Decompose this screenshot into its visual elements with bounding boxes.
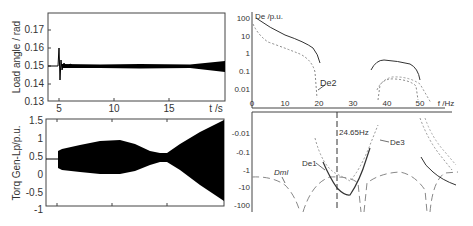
marker-label: 24.65Hz (339, 128, 369, 137)
ytick: 0.5 (29, 151, 43, 162)
ytick: 0.17 (25, 24, 45, 35)
ytick: -100 (234, 201, 251, 210)
de2-label: De2 (320, 78, 337, 88)
xtick: 15 (163, 103, 175, 114)
ytick: 0.1 (239, 67, 251, 76)
y-axis-label: Load angle / rad (11, 21, 22, 93)
y-axis-label: Torq Gen-Lp/p.u. (11, 125, 22, 200)
damping-positive-plot: 100 10 1 0.1 0.01 De /p.u. 0 10 20 30 40… (234, 12, 454, 108)
ytick: -0.01 (232, 129, 251, 138)
xtick: 5 (56, 103, 62, 114)
xtick: 50 (416, 99, 425, 108)
ytick: 1.5 (29, 115, 43, 126)
ytick: -1 (34, 204, 43, 215)
ytick: 0.16 (25, 42, 45, 53)
ytick: 1 (246, 49, 251, 58)
xtick: 10 (108, 103, 120, 114)
ytick: 100 (237, 14, 251, 23)
damping-negative-plot: -0.01 -0.1 -1 -10 -100 24.65Hz De1 De3 D… (232, 112, 458, 212)
xtick: 20 (315, 99, 324, 108)
load-angle-plot: 0.17 0.16 0.15 0.14 0.13 5 10 15 t /s Lo… (11, 13, 225, 114)
ytick: 1 (37, 133, 43, 144)
x-axis-label: t /s (209, 103, 222, 114)
x-axis-label: f /Hz (438, 99, 454, 108)
figure: 0.17 0.16 0.15 0.14 0.13 5 10 15 t /s Lo… (0, 0, 473, 226)
xtick: 0 (250, 99, 255, 108)
ytick: -0.1 (236, 148, 250, 157)
ytick: -1 (243, 166, 251, 175)
xtick: 40 (383, 99, 392, 108)
ytick: 0.15 (25, 60, 45, 71)
torque-plot: 1.5 1 0.5 0 -0.5 -1 Torq Gen-Lp/p.u. (11, 115, 224, 215)
ytick: -0.5 (26, 187, 44, 198)
xtick: 30 (349, 99, 358, 108)
ytick: 0.14 (25, 78, 45, 89)
ytick: 10 (241, 32, 250, 41)
de1-label: De1 (302, 159, 317, 168)
ytick: 0.01 (234, 85, 250, 94)
dml-label: Dml (274, 168, 288, 177)
ytick: -10 (238, 183, 250, 192)
ytick: 0.13 (25, 96, 45, 107)
de3-label: De3 (390, 138, 405, 147)
ytick: 0 (37, 169, 43, 180)
xtick: 10 (281, 99, 290, 108)
